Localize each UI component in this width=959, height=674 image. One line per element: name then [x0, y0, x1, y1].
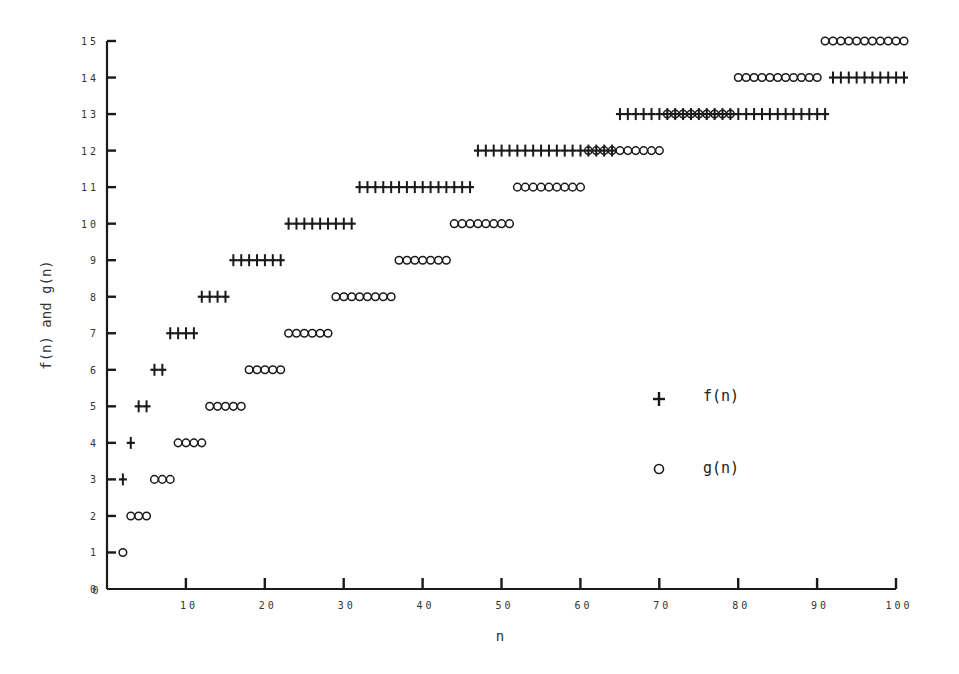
- chart: 0123456789101112131415010203040506070809…: [0, 0, 959, 674]
- x-tick-label: 30: [338, 600, 356, 611]
- y-tick-label: 14: [81, 73, 99, 84]
- axes: 0123456789101112131415010203040506070809…: [81, 36, 913, 611]
- legend-item-f: f(n): [653, 387, 739, 406]
- y-tick-label: 4: [90, 438, 99, 449]
- y-tick-label: 5: [90, 401, 99, 412]
- y-tick-label: 2: [90, 511, 99, 522]
- y-axis-label: f(n) and g(n): [38, 260, 54, 370]
- series-fn: [119, 72, 908, 486]
- x-tick-label: 70: [653, 600, 671, 611]
- x-tick-label: 40: [417, 600, 435, 611]
- x-tick-label: 80: [732, 600, 750, 611]
- legend: f(n) g(n): [653, 387, 739, 477]
- plot-area: [119, 37, 908, 556]
- x-tick-label: 100: [885, 600, 912, 611]
- x-tick-label: 90: [811, 600, 829, 611]
- circle-marker-icon: [655, 465, 664, 474]
- legend-label-g: g(n): [703, 459, 739, 477]
- y-tick-label: 3: [90, 474, 99, 485]
- x-tick-label: 20: [259, 600, 277, 611]
- y-tick-label: 13: [81, 109, 99, 120]
- y-tick-label: 6: [90, 365, 99, 376]
- y-tick-label: 8: [90, 292, 99, 303]
- x-tick-label: 0: [92, 585, 101, 596]
- legend-item-g: g(n): [655, 459, 740, 477]
- y-tick-label: 7: [90, 328, 99, 339]
- x-tick-label: 50: [495, 600, 513, 611]
- x-tick-label: 60: [574, 600, 592, 611]
- y-tick-label: 15: [81, 36, 99, 47]
- y-tick-label: 9: [90, 255, 99, 266]
- y-tick-label: 12: [81, 146, 99, 157]
- plus-marker-icon: [653, 392, 665, 406]
- y-tick-label: 1: [90, 547, 99, 558]
- legend-label-f: f(n): [703, 387, 739, 405]
- x-tick-label: 10: [180, 600, 198, 611]
- y-tick-label: 10: [81, 219, 99, 230]
- x-axis-label: n: [496, 628, 504, 644]
- y-tick-label: 11: [81, 182, 99, 193]
